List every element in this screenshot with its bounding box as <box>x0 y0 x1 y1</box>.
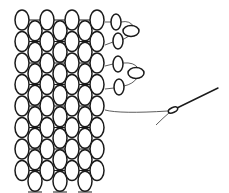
bead <box>78 42 92 62</box>
bead <box>15 10 29 30</box>
bead <box>28 64 42 84</box>
bead <box>53 42 67 62</box>
edge-bead <box>128 68 144 79</box>
bead <box>78 85 92 105</box>
bead <box>53 107 67 127</box>
bead <box>15 32 29 52</box>
bead <box>78 128 92 148</box>
bead <box>78 171 92 191</box>
thread-tail <box>156 112 170 125</box>
bead <box>78 64 92 84</box>
bead <box>15 53 29 73</box>
bead <box>28 21 42 41</box>
bead <box>15 118 29 138</box>
needle-icon <box>177 88 218 108</box>
bead <box>15 96 29 116</box>
bead <box>28 42 42 62</box>
bead-netting-grid <box>15 10 104 191</box>
bead <box>78 150 92 170</box>
bead <box>53 64 67 84</box>
bead <box>28 107 42 127</box>
bead <box>28 85 42 105</box>
bead <box>53 85 67 105</box>
bead <box>53 150 67 170</box>
bead <box>28 150 42 170</box>
picot-edge-beads <box>105 14 144 95</box>
edge-bead <box>111 14 121 30</box>
bead <box>28 171 42 191</box>
edge-bead <box>113 56 123 72</box>
bead <box>15 139 29 159</box>
bead <box>78 107 92 127</box>
needle-eye <box>167 106 178 115</box>
bead <box>15 75 29 95</box>
edge-bead <box>114 79 124 95</box>
edge-bead <box>123 26 139 37</box>
bead <box>28 128 42 148</box>
bead <box>53 128 67 148</box>
working-thread <box>105 110 168 112</box>
bead <box>53 171 67 191</box>
bead <box>15 161 29 181</box>
bead <box>78 21 92 41</box>
beadwork-illustration <box>0 0 229 193</box>
edge-bead <box>113 33 123 49</box>
bead <box>53 21 67 41</box>
